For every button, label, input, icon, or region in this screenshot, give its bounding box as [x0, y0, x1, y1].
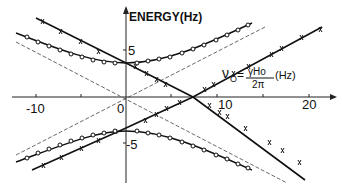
svg-text:2π: 2π [252, 79, 265, 90]
energy-level-chart: -10 0 10 20 5 -5 ENERGY(Hz) ν O = γHo 2π… [0, 0, 342, 187]
x-axis-arrow-icon [330, 94, 337, 100]
y-axis-title: ENERGY(Hz) [129, 10, 202, 24]
svg-text:(Hz): (Hz) [275, 69, 296, 81]
crossing-levels [32, 18, 322, 180]
tick-label-x-0: 0 [117, 101, 124, 116]
svg-text:γHo: γHo [248, 66, 266, 77]
x-axis-formula: ν O = γHo 2π (Hz) [222, 65, 296, 90]
tick-label-x-20: 20 [302, 97, 316, 112]
tick-label-y-5: 5 [128, 43, 135, 58]
tick-label-y-m5: -5 [126, 137, 138, 152]
tick-label-x-m10: -10 [26, 101, 45, 116]
tick-label-x-10: 10 [218, 97, 232, 112]
